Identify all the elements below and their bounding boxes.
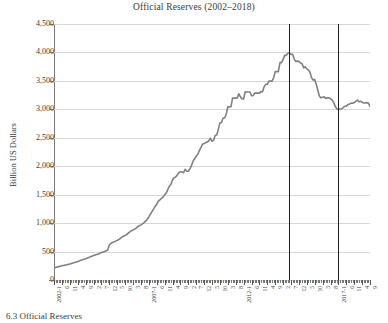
x-tick-label: 4: [175, 286, 181, 289]
x-tick-label: 7: [198, 286, 204, 289]
x-tick-mark: [370, 280, 371, 285]
x-tick-label: 10: [127, 286, 133, 292]
x-tick-label: 2012-1: [246, 286, 252, 303]
figure-official-reserves: Official Reserves (2002–2018) Billion US…: [0, 0, 388, 323]
x-tick-label: 7: [293, 286, 299, 289]
x-tick-label: 4: [270, 286, 276, 289]
x-tick-label: 6: [64, 286, 70, 289]
y-tick-label: 1,000: [8, 218, 54, 227]
y-tick-label: 4,000: [8, 47, 54, 56]
x-tick-label: 8: [143, 286, 149, 289]
x-tick-label: 5: [119, 286, 125, 289]
x-tick-label: 10: [222, 286, 228, 292]
y-axis-ticks: 4,5004,0003,5003,0002,5002,0001,5001,000…: [0, 0, 54, 323]
x-tick-label: 11: [262, 286, 268, 291]
x-tick-label: 8: [333, 286, 339, 289]
x-tick-label: 2: [96, 286, 102, 289]
x-tick-label: 10: [317, 286, 323, 292]
x-axis-ticks: 2002-1611492712510382007-161149271251038…: [54, 280, 374, 323]
x-tick-label: 4: [80, 286, 86, 289]
x-tick-label: 7: [104, 286, 110, 289]
x-tick-label: 11: [356, 286, 362, 291]
x-tick-label: 6: [159, 286, 165, 289]
figure-caption: 6.3 Official Reserves: [6, 311, 82, 323]
x-tick-label: 12: [206, 286, 212, 292]
y-tick-label: 2,500: [8, 133, 54, 142]
x-tick-label: 2002-1: [56, 286, 62, 303]
y-tick-label: 4,500: [8, 19, 54, 28]
trough-line: [338, 24, 339, 281]
x-tick-label: 3: [230, 286, 236, 289]
y-tick-label: 0: [8, 275, 54, 284]
x-tick-label: 9: [372, 286, 378, 289]
x-tick-label: 2: [191, 286, 197, 289]
plot-area: [54, 24, 370, 280]
x-tick-label: 9: [277, 286, 283, 289]
x-tick-label: 12: [301, 286, 307, 292]
y-tick-label: 3,500: [8, 76, 54, 85]
x-tick-label: 11: [72, 286, 78, 291]
y-tick-label: 1,500: [8, 190, 54, 199]
x-tick-label: 6: [254, 286, 260, 289]
x-tick-label: 3: [325, 286, 331, 289]
chart-title: Official Reserves (2002–2018): [0, 2, 388, 12]
x-tick-label: 4: [364, 286, 370, 289]
x-tick-label: 11: [167, 286, 173, 291]
x-tick-label: 5: [309, 286, 315, 289]
x-tick-label: 6: [349, 286, 355, 289]
x-tick-label: 12: [112, 286, 118, 292]
x-tick-label: 8: [238, 286, 244, 289]
peak-line: [289, 24, 290, 281]
x-tick-label: 3: [135, 286, 141, 289]
x-tick-label: 2007-1: [151, 286, 157, 303]
y-tick-label: 500: [8, 247, 54, 256]
x-tick-label: 2017-1: [341, 286, 347, 303]
x-tick-label: 9: [183, 286, 189, 289]
reference-lines-layer: [54, 24, 370, 280]
y-tick-label: 2,000: [8, 161, 54, 170]
x-tick-label: 9: [88, 286, 94, 289]
x-tick-label: 2: [285, 286, 291, 289]
x-tick-label: 5: [214, 286, 220, 289]
y-tick-label: 3,000: [8, 104, 54, 113]
